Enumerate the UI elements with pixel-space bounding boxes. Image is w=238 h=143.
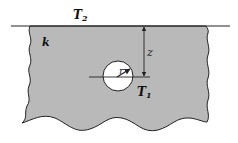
depth-label: z bbox=[146, 46, 153, 59]
buried-cylinder-diagram: T2 k z r T1 bbox=[0, 0, 238, 143]
surface-temperature-label: T2 bbox=[73, 8, 88, 23]
conductivity-label: k bbox=[42, 36, 50, 49]
